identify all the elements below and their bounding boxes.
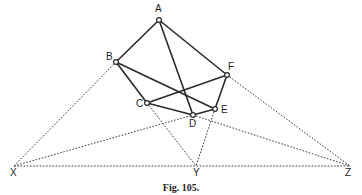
point-a-label: A — [155, 3, 162, 14]
edge-ab — [116, 20, 159, 62]
figure-caption: Fig. 105. — [163, 182, 200, 193]
point-x-label: X — [10, 167, 17, 178]
point-e-marker — [213, 107, 218, 112]
point-d-label: D — [189, 118, 196, 129]
point-a-marker — [157, 18, 162, 23]
dotted-line-dz — [193, 115, 350, 166]
edge-bc — [116, 62, 147, 103]
point-f-marker — [225, 73, 230, 78]
dotted-line-ey — [196, 109, 215, 166]
edge-be — [116, 62, 215, 109]
dotted-line-fz — [227, 75, 350, 166]
dotted-line-xd — [14, 115, 193, 166]
dotted-construction-lines — [14, 62, 350, 166]
geometry-figure: ABCDEFXYZ Fig. 105. — [0, 0, 362, 195]
point-b-label: B — [106, 51, 113, 62]
point-e-label: E — [221, 104, 228, 115]
solid-edges — [116, 20, 227, 115]
edge-de — [193, 109, 215, 115]
vertex-markers — [114, 18, 230, 118]
point-b-marker — [114, 60, 119, 65]
dotted-line-xb — [14, 62, 116, 166]
edge-cd — [147, 103, 193, 115]
point-c-marker — [145, 101, 150, 106]
point-d-marker — [191, 113, 196, 118]
point-c-label: C — [136, 98, 143, 109]
point-f-label: F — [228, 61, 234, 72]
point-y-label: Y — [193, 167, 200, 178]
dotted-line-cy — [147, 103, 196, 166]
point-z-label: Z — [345, 167, 351, 178]
